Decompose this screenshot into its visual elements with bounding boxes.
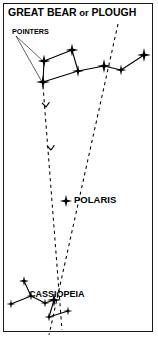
star-marker-cs2 [19, 276, 29, 286]
star-marker-gb7 [137, 48, 151, 62]
constellation-link-gb2-gb3 [44, 50, 72, 61]
arrowhead-glyph [42, 103, 49, 108]
constellation-link-cs6-cs7 [49, 311, 68, 317]
pointer-line-left-arrowhead-2 [47, 146, 54, 151]
constellation-link-gb6-gb7 [121, 55, 144, 70]
pointers-annotation-label: POINTERS [12, 27, 49, 36]
arrowhead-glyph [47, 146, 54, 151]
constellation-link-cs1-cs3 [11, 296, 31, 304]
star-marker-cs1 [6, 299, 15, 308]
star-marker-gb3 [66, 44, 79, 57]
cassiopeia-constellation-label: CASSIOPEIA [29, 289, 85, 299]
polaris-star-label: POLARIS [74, 194, 116, 205]
leader-to-lower-bowl-star [16, 36, 42, 82]
constellation-link-gb4-gb1 [43, 71, 78, 82]
title-conjunction: or [77, 7, 92, 18]
star-marker-gb6 [116, 65, 127, 76]
constellation-connector-lines [11, 50, 144, 317]
star-marker-gb1 [36, 75, 50, 89]
title-part-plough: PLOUGH [91, 6, 136, 18]
leader-to-bowl-star [16, 36, 44, 62]
star-markers [6, 44, 151, 322]
constellation-title-great-bear: GREAT BEAR or PLOUGH [8, 6, 136, 18]
star-chart-figure: GREAT BEAR or PLOUGH POINTERS POLARIS CA… [0, 0, 158, 337]
constellation-link-gb4-gb5 [78, 66, 104, 71]
star-marker-gb4 [72, 65, 84, 77]
pointer-leader-lines [16, 36, 44, 82]
star-map-canvas [0, 0, 158, 337]
star-marker-cs6 [44, 312, 53, 321]
star-marker-polaris [60, 195, 72, 207]
star-marker-gb5 [97, 59, 111, 73]
constellation-link-gb3-gb4 [72, 50, 78, 71]
title-part-great-bear: GREAT BEAR [8, 6, 77, 18]
star-marker-gb2 [38, 55, 51, 68]
star-marker-cs7 [63, 306, 72, 315]
pointer-line-left-arrowhead-1 [42, 103, 49, 108]
